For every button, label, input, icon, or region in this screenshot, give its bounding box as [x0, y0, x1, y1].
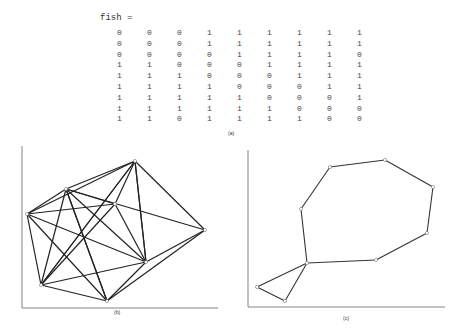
graph-figures	[0, 0, 457, 328]
graph-node	[105, 299, 108, 302]
graph-edge	[301, 167, 330, 209]
graph-node	[255, 285, 258, 288]
graph-edge	[27, 214, 41, 285]
graph-node	[283, 299, 286, 302]
graph-b	[25, 159, 206, 302]
graph-node	[374, 258, 377, 261]
graph-edge	[257, 287, 285, 301]
graph-edge	[376, 233, 427, 260]
graph-node	[39, 283, 42, 286]
graph-edge	[115, 204, 146, 262]
graph-c	[255, 158, 434, 302]
graph-node	[431, 185, 434, 188]
graph-node	[64, 187, 67, 190]
graph-node	[425, 231, 428, 234]
graph-edge	[301, 209, 307, 263]
graph-edge	[427, 187, 433, 233]
graph-edge	[27, 161, 135, 214]
graph-edge	[41, 285, 107, 301]
graph-node	[383, 158, 386, 161]
graph-edge	[27, 214, 146, 262]
graph-node	[144, 260, 147, 263]
graph-edge	[330, 160, 385, 167]
caption-b: (b)	[114, 309, 120, 315]
graph-node	[203, 228, 206, 231]
graph-node	[113, 202, 116, 205]
graph-edge	[107, 230, 205, 301]
graph-b-axes	[22, 146, 218, 308]
graph-c-axes	[248, 150, 445, 307]
graph-edge	[146, 230, 205, 262]
graph-edge	[107, 262, 146, 301]
graph-edge	[385, 160, 433, 187]
graph-node	[25, 212, 28, 215]
graph-node	[305, 261, 308, 264]
caption-c: (c)	[343, 315, 349, 321]
graph-node	[133, 159, 136, 162]
graph-node	[328, 165, 331, 168]
graph-edge	[27, 214, 107, 301]
graph-node	[299, 207, 302, 210]
graph-edge	[307, 260, 376, 263]
